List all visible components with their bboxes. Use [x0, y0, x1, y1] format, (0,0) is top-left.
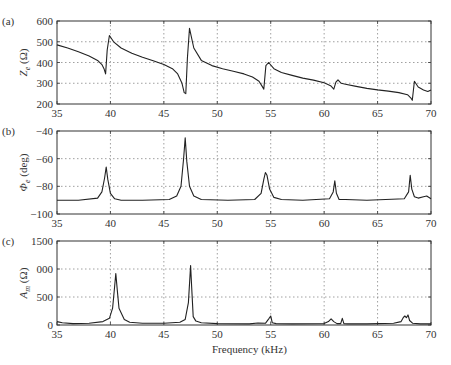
x-tick-label: 65	[372, 217, 384, 229]
x-tick-label: 35	[52, 107, 64, 119]
x-tick-label: 55	[265, 217, 277, 229]
panel-a: 3540455055606570600500400300200(a)Ze (Ω)	[2, 15, 437, 119]
x-tick-label: 50	[212, 217, 224, 229]
data-line	[57, 28, 431, 100]
x-tick-label: 35	[52, 328, 64, 340]
x-tick-label: 65	[372, 107, 384, 119]
y-tick-label: 500	[37, 291, 54, 303]
x-tick-label: 70	[426, 107, 438, 119]
y-tick-label: −80	[36, 180, 54, 192]
x-tick-label: 60	[319, 328, 331, 340]
y-tick-label: 0	[48, 319, 54, 331]
x-tick-label: 40	[105, 217, 117, 229]
data-line	[57, 266, 431, 324]
y-axis-label: Ze (Ω)	[17, 48, 32, 76]
y-tick-label: 500	[37, 36, 54, 48]
x-tick-label: 50	[212, 107, 224, 119]
x-tick-label: 60	[319, 107, 331, 119]
x-tick-label: 45	[158, 217, 170, 229]
panel-label: (c)	[2, 235, 15, 248]
x-tick-label: 55	[265, 107, 277, 119]
x-tick-label: 45	[158, 328, 170, 340]
x-tick-label: 65	[372, 328, 384, 340]
y-tick-label: 400	[37, 57, 54, 69]
panel-b: 3540455055606570−40−60−80−100(b)Φe (deg)	[2, 125, 437, 229]
x-tick-label: 55	[265, 328, 277, 340]
y-tick-label: 600	[37, 15, 54, 27]
x-tick-label: 70	[426, 328, 438, 340]
y-tick-label: −100	[30, 208, 53, 220]
y-tick-label: −60	[36, 153, 54, 165]
x-tick-label: 40	[105, 328, 117, 340]
x-axis-label: Frequency (kHz)	[212, 343, 287, 355]
x-tick-label: 60	[319, 217, 331, 229]
y-tick-label: 000	[37, 263, 54, 275]
panel-label: (b)	[2, 125, 15, 138]
figure: 3540455055606570600500400300200(a)Ze (Ω)…	[0, 0, 451, 365]
y-axis-label: Am (Ω)	[17, 267, 32, 299]
panel-c: 354045505560657015000005000(c)Am (Ω)	[2, 235, 437, 340]
x-tick-label: 35	[52, 217, 64, 229]
y-axis-label: Φe (deg)	[17, 153, 32, 191]
data-line	[57, 138, 431, 200]
y-tick-label: 300	[37, 77, 54, 89]
y-tick-label: −40	[36, 125, 54, 137]
x-tick-label: 45	[158, 107, 170, 119]
panel-label: (a)	[2, 15, 15, 28]
x-tick-label: 50	[212, 328, 224, 340]
x-tick-label: 70	[426, 217, 438, 229]
axes-box	[57, 131, 431, 214]
x-tick-label: 40	[105, 107, 117, 119]
y-tick-label: 1500	[31, 235, 54, 247]
axes-box	[57, 241, 431, 325]
y-tick-label: 200	[37, 98, 54, 110]
